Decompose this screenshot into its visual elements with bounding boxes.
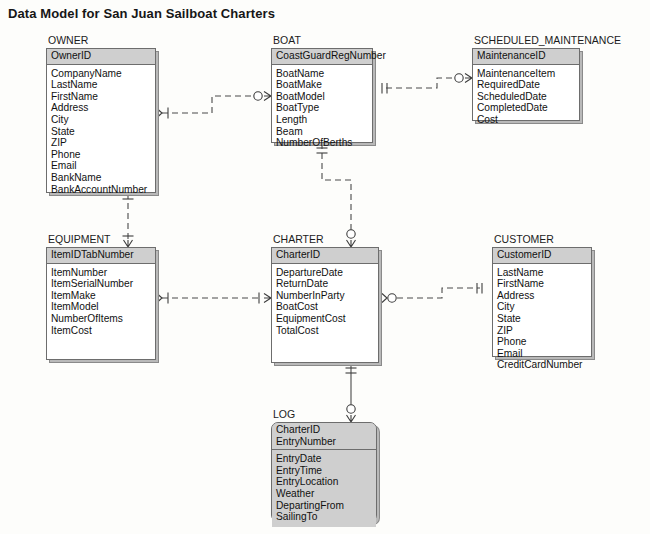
- attribute: NumberOfBerths: [276, 137, 372, 149]
- relationship-boat-charter: [317, 143, 356, 247]
- attribute: BoatMake: [276, 79, 372, 91]
- entity-name-customer: CUSTOMER: [494, 233, 554, 245]
- primary-key-area-customer: CustomerID: [493, 248, 591, 264]
- attribute: LastName: [497, 267, 591, 279]
- primary-key-area-log: CharterIDEntryNumber: [272, 423, 376, 450]
- relationship-charter-customer: [382, 283, 482, 303]
- attribute: ZIP: [497, 325, 591, 337]
- entity-name-owner: OWNER: [48, 34, 88, 46]
- primary-key-area-equipment: ItemIDTabNumber: [47, 248, 155, 264]
- attribute: ItemMake: [51, 290, 155, 302]
- attribute: BoatType: [276, 102, 372, 114]
- attribute: CompletedDate: [477, 102, 579, 114]
- key-attribute: MaintenanceID: [477, 50, 579, 62]
- primary-key-area-scheduled_maintenance: MaintenanceID: [473, 49, 579, 65]
- attribute: City: [51, 114, 155, 126]
- attribute: State: [51, 126, 155, 138]
- attribute-area-log: EntryDateEntryTimeEntryLocationWeatherDe…: [272, 450, 376, 527]
- attribute: EntryLocation: [276, 476, 376, 488]
- attribute: Beam: [276, 126, 372, 138]
- attribute: ItemSerialNumber: [51, 278, 155, 290]
- primary-key-area-boat: CoastGuardRegNumber: [272, 49, 372, 65]
- attribute: Email: [497, 348, 591, 360]
- attribute: EntryDate: [276, 453, 376, 465]
- entity-box-scheduled_maintenance: MaintenanceIDMaintenanceItemRequiredDate…: [472, 48, 580, 121]
- attribute: NumberInParty: [276, 290, 378, 302]
- key-attribute: CoastGuardRegNumber: [276, 50, 372, 62]
- attribute: DepartureDate: [276, 267, 378, 279]
- attribute: Phone: [497, 336, 591, 348]
- key-attribute: CustomerID: [497, 249, 591, 261]
- attribute-area-equipment: ItemNumberItemSerialNumberItemMakeItemMo…: [47, 264, 155, 341]
- entity-box-customer: CustomerIDLastNameFirstNameAddressCitySt…: [492, 247, 592, 357]
- attribute: ItemNumber: [51, 267, 155, 279]
- attribute: ReturnDate: [276, 278, 378, 290]
- attribute-area-customer: LastNameFirstNameAddressCityStateZIPPhon…: [493, 264, 591, 375]
- entity-name-boat: BOAT: [273, 34, 301, 46]
- relationship-boat-scheduled-maintenance: [382, 74, 472, 94]
- entity-name-charter: CHARTER: [273, 233, 324, 245]
- attribute: CompanyName: [51, 68, 155, 80]
- entity-box-log: CharterIDEntryNumberEntryDateEntryTimeEn…: [271, 422, 377, 522]
- attribute: ScheduledDate: [477, 91, 579, 103]
- attribute: CreditCardNumber: [497, 359, 591, 371]
- attribute: BoatName: [276, 68, 372, 80]
- entity-box-charter: CharterIDDepartureDateReturnDateNumberIn…: [271, 247, 379, 363]
- attribute: TotalCost: [276, 325, 378, 337]
- attribute: Email: [51, 160, 155, 172]
- attribute: Address: [51, 102, 155, 114]
- attribute-area-scheduled_maintenance: MaintenanceItemRequiredDateScheduledDate…: [473, 65, 579, 130]
- attribute: State: [497, 313, 591, 325]
- key-attribute: ItemIDTabNumber: [51, 249, 155, 261]
- attribute: Cost: [477, 114, 579, 126]
- entity-box-equipment: ItemIDTabNumberItemNumberItemSerialNumbe…: [46, 247, 156, 360]
- key-attribute: OwnerID: [51, 50, 155, 62]
- attribute: FirstName: [51, 91, 155, 103]
- page-title: Data Model for San Juan Sailboat Charter…: [8, 6, 275, 21]
- attribute: BoatCost: [276, 301, 378, 313]
- attribute-area-owner: CompanyNameLastNameFirstNameAddressCityS…: [47, 65, 155, 200]
- attribute: City: [497, 301, 591, 313]
- attribute: FirstName: [497, 278, 591, 290]
- entity-box-owner: OwnerIDCompanyNameLastNameFirstNameAddre…: [46, 48, 156, 193]
- attribute: BoatModel: [276, 91, 372, 103]
- attribute: Weather: [276, 488, 376, 500]
- attribute: LastName: [51, 79, 155, 91]
- attribute: Length: [276, 114, 372, 126]
- attribute: EquipmentCost: [276, 313, 378, 325]
- attribute: BankName: [51, 172, 155, 184]
- attribute: EntryTime: [276, 465, 376, 477]
- attribute: NumberOfItems: [51, 313, 155, 325]
- attribute: ItemCost: [51, 325, 155, 337]
- attribute: RequiredDate: [477, 79, 579, 91]
- attribute: SailingTo: [276, 511, 376, 523]
- entity-name-scheduled_maintenance: SCHEDULED_MAINTENANCE: [474, 34, 621, 46]
- relationship-charter-log: [346, 363, 357, 422]
- key-attribute: CharterID: [276, 424, 376, 436]
- attribute: BankAccountNumber: [51, 184, 155, 196]
- attribute: Phone: [51, 149, 155, 161]
- entity-name-equipment: EQUIPMENT: [48, 233, 110, 245]
- primary-key-area-owner: OwnerID: [47, 49, 155, 65]
- attribute: Address: [497, 290, 591, 302]
- primary-key-area-charter: CharterID: [272, 248, 378, 264]
- attribute-area-charter: DepartureDateReturnDateNumberInPartyBoat…: [272, 264, 378, 341]
- attribute: ZIP: [51, 137, 155, 149]
- entity-box-boat: CoastGuardRegNumberBoatNameBoatMakeBoatM…: [271, 48, 373, 143]
- attribute: DepartingFrom: [276, 500, 376, 512]
- relationship-equipment-charter: [157, 293, 271, 304]
- attribute: MaintenanceItem: [477, 68, 579, 80]
- attribute-area-boat: BoatNameBoatMakeBoatModelBoatTypeLengthB…: [272, 65, 372, 153]
- attribute: ItemModel: [51, 301, 155, 313]
- key-attribute: CharterID: [276, 249, 378, 261]
- key-attribute: EntryNumber: [276, 436, 376, 448]
- entity-name-log: LOG: [273, 408, 295, 420]
- relationship-owner-boat: [157, 92, 271, 119]
